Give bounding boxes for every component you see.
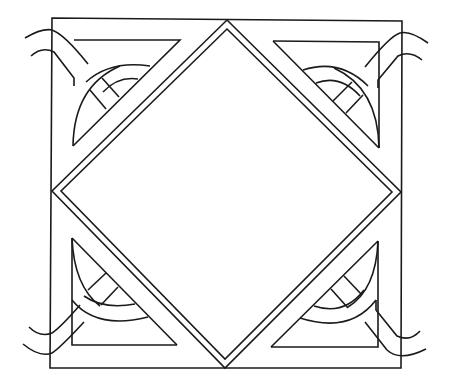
top-right-corner-motif (273, 32, 428, 148)
inner-diamond (61, 29, 392, 359)
knot-pattern-drawing (0, 0, 453, 390)
